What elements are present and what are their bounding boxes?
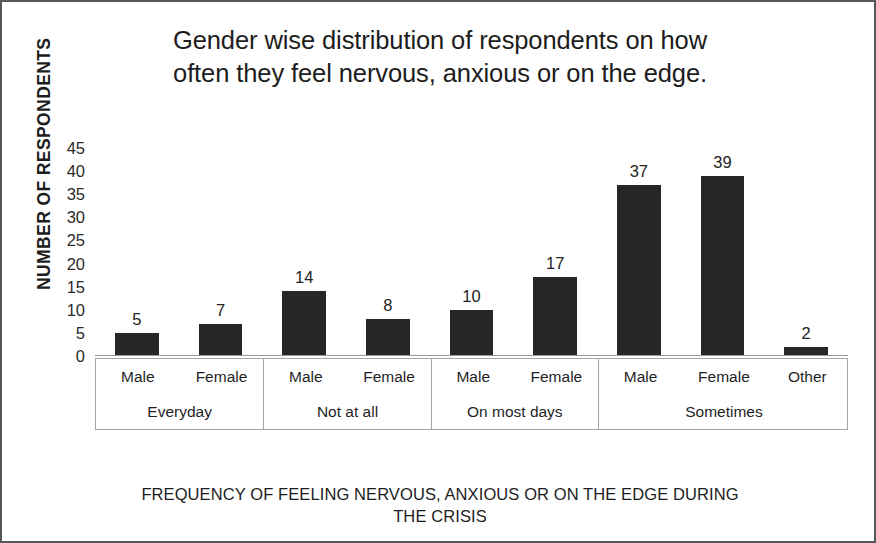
x-axis-title: FREQUENCY OF FEELING NERVOUS, ANXIOUS OR…	[72, 483, 808, 528]
y-axis-tick-0: 0	[76, 347, 85, 366]
gender-group-0: MaleFemale	[96, 359, 263, 395]
bar-value-label: 5	[132, 310, 141, 329]
bar-value-label: 2	[802, 324, 811, 343]
bar-sometimes-female: 39	[701, 176, 745, 356]
y-axis-tick-25: 25	[67, 231, 85, 250]
bar-sometimes-male: 37	[617, 185, 661, 356]
chart-title-line-2: often they feel nervous, anxious or on t…	[173, 59, 707, 87]
y-axis-tick-20: 20	[67, 254, 85, 273]
x-axis-title-line-1: FREQUENCY OF FEELING NERVOUS, ANXIOUS OR…	[141, 485, 738, 503]
bar-value-label: 37	[630, 162, 648, 181]
bar-everyday-male: 5	[115, 333, 159, 356]
gender-label: Female	[682, 359, 765, 395]
bar-value-label: 10	[462, 287, 480, 306]
chart-title-line-1: Gender wise distribution of respondents …	[173, 26, 707, 54]
gender-label: Female	[180, 359, 264, 395]
gender-label: Male	[432, 359, 515, 395]
bar-not-at-all-male: 14	[282, 291, 326, 356]
x-axis-baseline	[95, 355, 848, 356]
y-axis-tick-10: 10	[67, 300, 85, 319]
frequency-label: Everyday	[96, 395, 263, 430]
gender-label: Other	[766, 359, 849, 395]
y-axis-tick-5: 5	[76, 323, 85, 342]
gender-label: Male	[599, 359, 682, 395]
gender-group-1: MaleFemale	[263, 359, 430, 395]
bar-value-label: 39	[713, 153, 731, 172]
bar-value-label: 17	[546, 254, 564, 273]
gender-label: Male	[264, 359, 347, 395]
y-axis-tick-15: 15	[67, 277, 85, 296]
frequency-label: Sometimes	[599, 395, 849, 430]
frequency-group-2: On most days	[431, 395, 598, 430]
bar-value-label: 8	[383, 296, 392, 315]
bar-on-most-days-female: 17	[533, 277, 577, 356]
frequency-group-1: Not at all	[263, 395, 430, 430]
x-axis-title-line-2: THE CRISIS	[393, 507, 487, 525]
chart-figure: Gender wise distribution of respondents …	[0, 0, 876, 543]
gender-label: Female	[515, 359, 598, 395]
frequency-label: On most days	[432, 395, 598, 430]
category-row-gender: MaleFemaleMaleFemaleMaleFemaleMaleFemale…	[96, 359, 847, 395]
bar-value-label: 14	[295, 268, 313, 287]
bar-not-at-all-female: 8	[366, 319, 410, 356]
category-row-group: EverydayNot at allOn most daysSometimes	[96, 395, 847, 430]
y-axis-tick-35: 35	[67, 185, 85, 204]
category-axis-table: MaleFemaleMaleFemaleMaleFemaleMaleFemale…	[95, 358, 848, 430]
gender-label: Male	[96, 359, 180, 395]
frequency-group-0: Everyday	[96, 395, 263, 430]
y-axis-tick-30: 30	[67, 208, 85, 227]
y-axis-tick-40: 40	[67, 162, 85, 181]
y-axis-tick-45: 45	[67, 139, 85, 158]
frequency-group-3: Sometimes	[598, 395, 849, 430]
bar-value-label: 7	[216, 301, 225, 320]
gender-group-2: MaleFemale	[431, 359, 598, 395]
plot-area: 454035302520151050 57148101737392	[95, 148, 848, 356]
gender-label: Female	[347, 359, 430, 395]
bar-everyday-female: 7	[199, 324, 243, 356]
y-axis-title: NUMBER OF RESPONDENTS	[34, 45, 55, 290]
bar-on-most-days-male: 10	[450, 310, 494, 356]
frequency-label: Not at all	[264, 395, 430, 430]
gender-group-3: MaleFemaleOther	[598, 359, 849, 395]
chart-title: Gender wise distribution of respondents …	[72, 24, 808, 89]
